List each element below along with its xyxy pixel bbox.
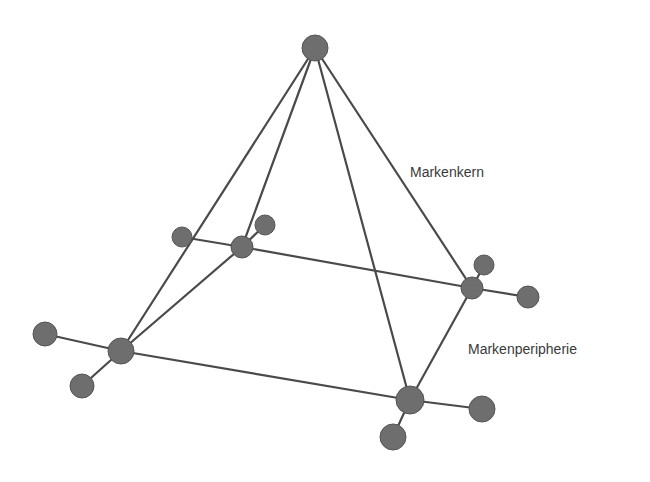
- node-front-left-sat-b: [70, 374, 94, 398]
- diagram-edges: [45, 48, 528, 437]
- node-apex: [302, 35, 328, 61]
- node-back-left-sat-a: [172, 227, 192, 247]
- node-right: [461, 277, 483, 299]
- node-right-sat-b: [517, 286, 539, 308]
- node-back-left: [231, 236, 253, 258]
- edge-back-left-front-left: [121, 247, 242, 351]
- node-front-right: [396, 386, 424, 414]
- edge-apex-back-left: [242, 48, 315, 247]
- node-right-sat-a: [474, 255, 494, 275]
- label-markenkern: Markenkern: [410, 164, 484, 180]
- node-front-left-sat-a: [33, 322, 57, 346]
- edge-apex-front-right: [315, 48, 410, 400]
- edge-back-left-right: [242, 247, 472, 288]
- diagram-nodes: [33, 35, 539, 450]
- node-front-right-sat-a: [469, 396, 495, 422]
- edge-apex-front-left: [121, 48, 315, 351]
- label-markenperipherie: Markenperipherie: [468, 341, 577, 357]
- node-front-right-sat-b: [380, 424, 406, 450]
- node-back-left-sat-b: [255, 215, 275, 235]
- node-front-left: [108, 338, 134, 364]
- edge-front-left-front-right: [121, 351, 410, 400]
- edge-right-front-right: [410, 288, 472, 400]
- pyramid-diagram: [0, 0, 650, 482]
